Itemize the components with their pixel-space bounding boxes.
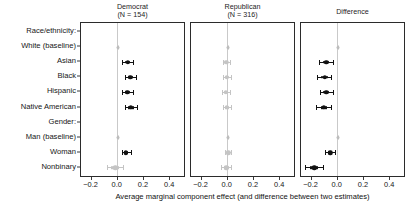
point-estimate-dot xyxy=(116,46,119,49)
ci-cap-high xyxy=(133,90,134,95)
ci-cap-high xyxy=(231,150,232,155)
x-axis-tick-label: 0.0 xyxy=(332,181,342,189)
ci-cap-low xyxy=(317,75,318,80)
estimate-marker xyxy=(81,103,184,112)
estimate-marker xyxy=(301,148,404,157)
panel-democrat xyxy=(80,22,185,177)
point-estimate-dot xyxy=(224,90,228,94)
panel-republican xyxy=(190,22,295,177)
ci-cap-low xyxy=(221,165,222,170)
x-axis-tick-label: −0.2 xyxy=(83,181,98,189)
estimate-marker xyxy=(301,133,404,142)
panel-difference xyxy=(300,22,405,177)
point-estimate-dot xyxy=(125,90,129,94)
plot-area-democrat xyxy=(81,23,184,176)
x-axis-tick-label: 0.4 xyxy=(274,181,284,189)
point-estimate-dot xyxy=(324,90,328,94)
point-estimate-dot xyxy=(128,75,132,79)
ci-cap-low xyxy=(122,90,123,95)
estimate-marker xyxy=(301,163,404,172)
row-label: Asian xyxy=(57,57,76,65)
estimate-marker xyxy=(301,58,404,67)
ci-cap-low xyxy=(125,75,126,80)
ci-cap-low xyxy=(305,165,306,170)
estimate-marker xyxy=(81,88,184,97)
x-axis-tick-label: 0.0 xyxy=(112,181,122,189)
ci-cap-high xyxy=(323,165,324,170)
x-axis-tick-label: 0.2 xyxy=(248,181,258,189)
estimate-marker xyxy=(191,148,294,157)
point-estimate-dot xyxy=(125,60,129,64)
x-axis-tick-label: 0.2 xyxy=(358,181,368,189)
panel-title-democrat: Democrat (N = 154) xyxy=(80,3,185,19)
point-estimate-dot xyxy=(226,151,230,155)
point-estimate-dot xyxy=(113,166,117,170)
estimate-marker xyxy=(191,73,294,82)
estimate-marker xyxy=(301,73,404,82)
point-estimate-dot xyxy=(336,136,339,139)
ci-cap-high xyxy=(333,60,334,65)
point-estimate-dot xyxy=(322,105,326,109)
ci-cap-high xyxy=(335,150,336,155)
ci-cap-high xyxy=(133,60,134,65)
panel-title-difference: Difference xyxy=(300,8,405,16)
estimate-marker xyxy=(81,43,184,52)
ci-cap-high xyxy=(231,105,232,110)
ci-cap-high xyxy=(231,165,232,170)
ci-cap-high xyxy=(331,75,332,80)
panel-title-republican: Republican (N = 316) xyxy=(190,3,295,19)
estimate-marker xyxy=(191,133,294,142)
x-axis-tick-label: 0.2 xyxy=(138,181,148,189)
ci-cap-high xyxy=(331,105,332,110)
ci-cap-high xyxy=(230,90,231,95)
row-group-label: Race/ethnicity: xyxy=(26,27,76,35)
x-axis-tick-label: −0.2 xyxy=(193,181,208,189)
estimate-marker xyxy=(191,163,294,172)
ci-cap-low xyxy=(107,165,108,170)
ci-cap-high xyxy=(123,165,124,170)
estimate-marker xyxy=(81,73,184,82)
estimate-marker xyxy=(81,58,184,67)
point-estimate-dot xyxy=(116,136,119,139)
point-estimate-dot xyxy=(226,46,229,49)
row-label: Native American xyxy=(21,103,76,111)
ci-cap-low xyxy=(319,60,320,65)
point-estimate-dot xyxy=(336,46,339,49)
ci-cap-low xyxy=(125,105,126,110)
x-axis-tick-label: 0.4 xyxy=(384,181,394,189)
ci-cap-low xyxy=(325,150,326,155)
estimate-marker xyxy=(81,148,184,157)
point-estimate-dot xyxy=(124,151,128,155)
estimate-marker xyxy=(81,133,184,142)
estimate-marker xyxy=(191,103,294,112)
row-label: Black xyxy=(57,72,76,80)
point-estimate-dot xyxy=(312,166,316,170)
forest-plot-figure: Race/ethnicity:White (baseline)AsianBlac… xyxy=(0,0,408,215)
point-estimate-dot xyxy=(225,105,229,109)
ci-cap-low xyxy=(122,60,123,65)
plot-area-difference xyxy=(301,23,404,176)
estimate-marker xyxy=(301,88,404,97)
row-label: Nonbinary xyxy=(41,163,76,171)
ci-cap-low xyxy=(316,105,317,110)
point-estimate-dot xyxy=(224,60,228,64)
x-axis-tick-label: 0.4 xyxy=(164,181,174,189)
ci-cap-high xyxy=(230,60,231,65)
estimate-marker xyxy=(301,43,404,52)
row-label: Hispanic xyxy=(47,87,76,95)
ci-cap-low xyxy=(122,150,123,155)
x-axis-title: Average marginal component effect (and d… xyxy=(115,192,369,201)
ci-cap-high xyxy=(333,90,334,95)
estimate-marker xyxy=(191,88,294,97)
x-axis-tick-label: −0.2 xyxy=(303,181,318,189)
x-axis-tick-label: 0.0 xyxy=(222,181,232,189)
plot-area-republican xyxy=(191,23,294,176)
ci-cap-high xyxy=(131,150,132,155)
estimate-marker xyxy=(191,58,294,67)
point-estimate-dot xyxy=(226,136,229,139)
ci-cap-high xyxy=(231,75,232,80)
ci-cap-high xyxy=(137,105,138,110)
point-estimate-dot xyxy=(324,60,328,64)
row-label: Woman xyxy=(50,148,76,156)
ci-cap-high xyxy=(136,75,137,80)
